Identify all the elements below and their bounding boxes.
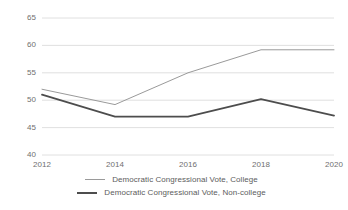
y-tick-label: 65	[12, 14, 36, 22]
x-tick-label: 2014	[95, 161, 135, 169]
y-tick-label: 60	[12, 41, 36, 49]
legend-item: Democratic Congressional Vote, College	[85, 175, 258, 184]
legend-label-non-college: Democratic Congressional Vote, Non-colle…	[104, 188, 265, 197]
legend-line-swatch-college	[85, 179, 105, 180]
x-tick-label: 2012	[22, 161, 62, 169]
legend-item: Democratic Congressional Vote, Non-colle…	[77, 188, 265, 197]
series-line-0	[42, 50, 334, 105]
legend-line-swatch-non-college	[77, 192, 97, 194]
x-tick-label: 2020	[314, 161, 348, 169]
y-tick-label: 55	[12, 69, 36, 77]
x-tick-label: 2018	[241, 161, 281, 169]
x-tick-label: 2016	[168, 161, 208, 169]
legend-label-college: Democratic Congressional Vote, College	[112, 175, 258, 184]
chart-legend: Democratic Congressional Vote, College D…	[0, 175, 343, 197]
y-tick-label: 50	[12, 96, 36, 104]
y-tick-label: 40	[12, 151, 36, 159]
y-tick-label: 45	[12, 124, 36, 132]
